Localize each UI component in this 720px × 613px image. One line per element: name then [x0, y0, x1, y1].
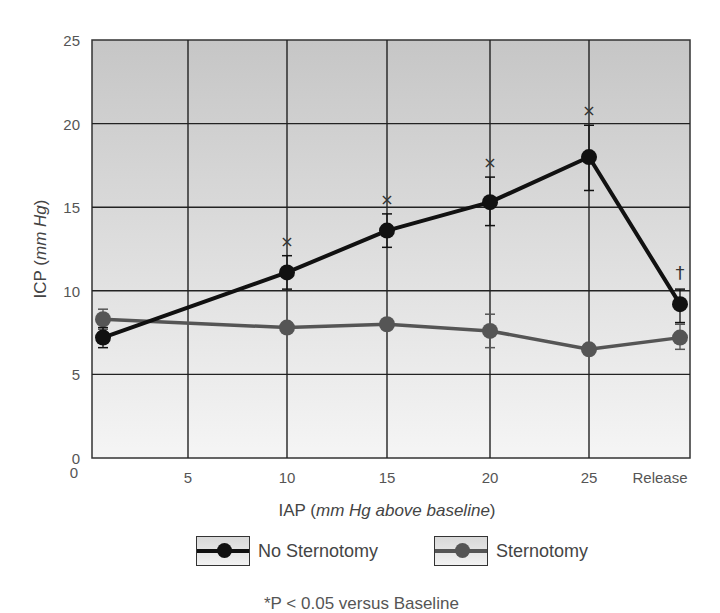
data-point — [279, 264, 295, 280]
y-tick-label: 15 — [63, 199, 80, 216]
significance-marker: × — [582, 101, 595, 120]
dagger-marker: † — [676, 262, 685, 283]
legend: No Sternotomy Sternotomy — [196, 536, 644, 566]
legend-label-sternotomy: Sternotomy — [496, 541, 588, 562]
data-point — [672, 296, 688, 312]
data-point — [581, 149, 597, 165]
y-tick-label: 10 — [63, 283, 80, 300]
significance-marker: × — [380, 190, 393, 209]
y-axis-title: ICP (mm Hg) — [31, 200, 50, 299]
y-tick-label: 5 — [72, 366, 80, 383]
legend-item-no-sternotomy: No Sternotomy — [196, 536, 378, 566]
plot-area — [92, 40, 690, 458]
x-axis-title: IAP (mm Hg above baseline) — [278, 501, 495, 520]
y-tick-label: 25 — [63, 32, 80, 49]
x-tick-label: 10 — [279, 469, 296, 486]
data-point — [482, 323, 498, 339]
x-origin-label: 0 — [70, 464, 78, 481]
x-tick-label: 25 — [581, 469, 598, 486]
footnote: *P < 0.05 versus Baseline — [264, 594, 459, 613]
y-axis-ticks: 0510152025 — [63, 32, 80, 467]
significance-marker: × — [483, 153, 496, 172]
y-tick-label: 20 — [63, 116, 80, 133]
x-tick-label: 5 — [184, 469, 192, 486]
x-tick-label: Release — [632, 469, 687, 486]
sternotomy-swatch-icon — [434, 536, 488, 566]
data-point — [95, 311, 111, 327]
legend-label-no-sternotomy: No Sternotomy — [258, 541, 378, 562]
data-point — [379, 316, 395, 332]
x-tick-label: 20 — [482, 469, 499, 486]
data-point — [95, 330, 111, 346]
significance-marker: × — [280, 232, 293, 251]
data-point — [672, 330, 688, 346]
data-point — [279, 320, 295, 336]
data-point — [482, 194, 498, 210]
x-axis-ticks: 0510152025Release — [70, 464, 688, 486]
legend-item-sternotomy: Sternotomy — [434, 536, 588, 566]
data-point — [379, 223, 395, 239]
x-tick-label: 15 — [379, 469, 396, 486]
data-point — [581, 341, 597, 357]
no-sternotomy-swatch-icon — [196, 536, 250, 566]
